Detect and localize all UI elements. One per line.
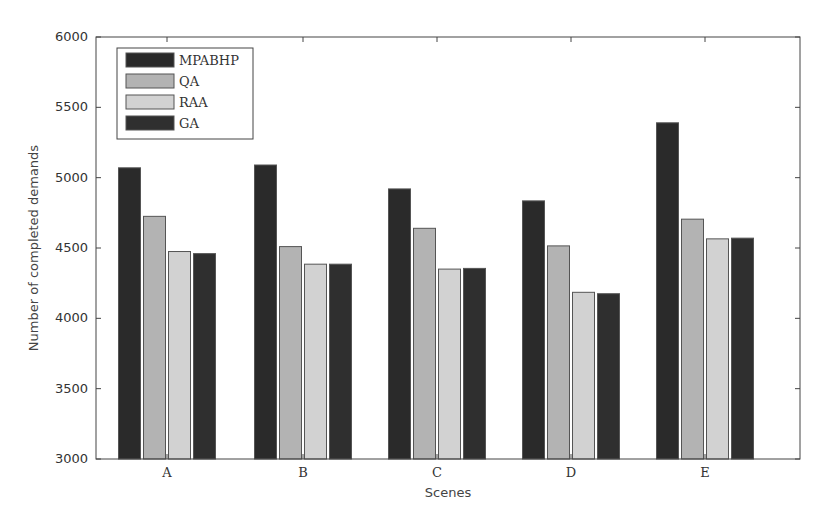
- bar-chart: 3000350040004500500055006000 ABCDE Scene…: [0, 0, 831, 523]
- x-axis-title: Scenes: [425, 485, 472, 500]
- y-tick-label: 5000: [55, 170, 88, 185]
- y-tick-label: 5500: [55, 99, 88, 114]
- legend-label-raa: RAA: [179, 95, 208, 110]
- bar-ga-b: [330, 264, 352, 459]
- bars-layer: [119, 123, 754, 459]
- bar-ga-a: [194, 254, 216, 459]
- bar-mpabhp-c: [389, 189, 411, 459]
- bar-raa-d: [573, 292, 595, 459]
- bar-raa-c: [439, 269, 461, 459]
- x-tick-label: A: [161, 465, 172, 480]
- legend-swatch-ga: [126, 116, 174, 130]
- bar-ga-d: [598, 294, 620, 459]
- bar-qa-e: [682, 219, 704, 459]
- x-tick-label: C: [432, 465, 442, 480]
- bar-raa-a: [169, 252, 191, 459]
- bar-qa-b: [280, 247, 302, 459]
- legend-label-mpabhp: MPABHP: [179, 53, 239, 68]
- legend-swatch-qa: [126, 74, 174, 88]
- bar-ga-c: [464, 268, 486, 459]
- bar-ga-e: [732, 238, 754, 459]
- bar-mpabhp-e: [657, 123, 679, 459]
- bar-qa-a: [144, 216, 166, 459]
- y-tick-label: 3500: [55, 381, 88, 396]
- bar-mpabhp-b: [255, 165, 277, 459]
- bar-mpabhp-d: [523, 201, 545, 459]
- y-tick-label: 3000: [55, 451, 88, 466]
- x-tick-label: D: [566, 465, 576, 480]
- legend-label-ga: GA: [179, 116, 199, 131]
- x-tick-label: E: [700, 465, 710, 480]
- bar-raa-b: [305, 264, 327, 459]
- y-tick-label: 4500: [55, 240, 88, 255]
- y-axis-title: Number of completed demands: [26, 145, 41, 351]
- bar-qa-d: [548, 246, 570, 459]
- bar-mpabhp-a: [119, 168, 141, 459]
- bar-qa-c: [414, 228, 436, 459]
- legend-swatch-mpabhp: [126, 53, 174, 67]
- legend: MPABHPQARAAGA: [117, 48, 253, 139]
- bar-raa-e: [707, 239, 729, 459]
- y-tick-label: 4000: [55, 310, 88, 325]
- y-tick-label: 6000: [55, 29, 88, 44]
- legend-label-qa: QA: [179, 74, 200, 89]
- x-tick-label: B: [298, 465, 308, 480]
- legend-swatch-raa: [126, 95, 174, 109]
